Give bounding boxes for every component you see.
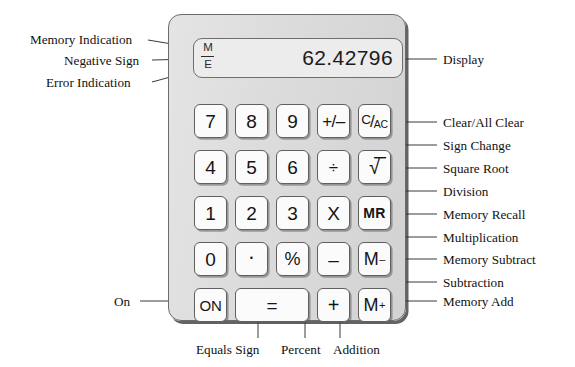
display-panel: M E 62.42796	[193, 38, 403, 78]
key-equals[interactable]: =	[235, 288, 309, 322]
key-memory-subtract[interactable]: M–	[358, 242, 391, 276]
label-sign-change: Sign Change	[443, 139, 511, 152]
key-multiply[interactable]: X	[317, 196, 350, 230]
key-1[interactable]: 1	[194, 196, 227, 230]
label-memory-add: Memory Add	[443, 295, 514, 308]
label-memory-indication: Memory Indication	[30, 33, 132, 46]
error-indicator: E	[201, 58, 215, 71]
label-display: Display	[443, 53, 484, 66]
label-equals-sign: Equals Sign	[196, 343, 259, 356]
key-7[interactable]: 7	[194, 104, 227, 138]
memory-subtract-base: M	[364, 250, 379, 268]
label-square-root: Square Root	[443, 162, 509, 175]
key-square-root[interactable]: √̅̅	[358, 150, 391, 184]
label-addition: Addition	[333, 343, 380, 356]
key-clear-all-clear[interactable]: C / AC	[358, 104, 391, 138]
diagram-canvas: M E 62.42796 7 8 9 +/– C / AC 4 5 6 ÷ √̅…	[0, 0, 575, 367]
label-multiplication: Multiplication	[443, 231, 518, 244]
keypad: 7 8 9 +/– C / AC 4 5 6 ÷ √̅̅ 1 2 3 X MR …	[194, 104, 388, 314]
key-sign-change[interactable]: +/–	[317, 104, 350, 138]
label-error-indication: Error Indication	[46, 76, 131, 89]
key-decimal[interactable]: ·	[235, 242, 268, 276]
memory-indicator: M	[201, 42, 215, 55]
memory-add-base: M	[364, 296, 379, 314]
label-memory-subtract: Memory Subtract	[443, 253, 536, 266]
key-6[interactable]: 6	[276, 150, 309, 184]
clear-ac-glyph: AC	[374, 119, 388, 130]
label-on: On	[114, 295, 130, 308]
key-add[interactable]: +	[317, 288, 350, 322]
key-memory-add[interactable]: M+	[358, 288, 391, 322]
key-9[interactable]: 9	[276, 104, 309, 138]
key-memory-recall[interactable]: MR	[358, 196, 391, 230]
label-division: Division	[443, 185, 488, 198]
label-subtraction: Subtraction	[443, 276, 504, 289]
key-8[interactable]: 8	[235, 104, 268, 138]
key-on[interactable]: ON	[194, 288, 227, 322]
key-0[interactable]: 0	[194, 242, 227, 276]
key-percent[interactable]: %	[276, 242, 309, 276]
key-subtract[interactable]: –	[317, 242, 350, 276]
label-memory-recall: Memory Recall	[443, 208, 525, 221]
label-negative-sign: Negative Sign	[64, 54, 139, 67]
key-4[interactable]: 4	[194, 150, 227, 184]
label-percent: Percent	[281, 343, 321, 356]
display-indicators: M E	[201, 42, 215, 70]
label-clear-all-clear: Clear/All Clear	[443, 116, 524, 129]
key-5[interactable]: 5	[235, 150, 268, 184]
key-2[interactable]: 2	[235, 196, 268, 230]
negative-sign-indicator	[201, 56, 214, 57]
key-divide[interactable]: ÷	[317, 150, 350, 184]
display-value: 62.42796	[302, 46, 393, 70]
key-3[interactable]: 3	[276, 196, 309, 230]
